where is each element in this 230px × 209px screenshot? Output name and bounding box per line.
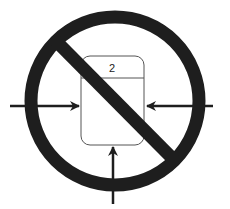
box-label: 2 bbox=[109, 62, 115, 74]
prohibition-icon bbox=[31, 17, 199, 185]
prohibition-diagram: 2 bbox=[0, 0, 230, 209]
